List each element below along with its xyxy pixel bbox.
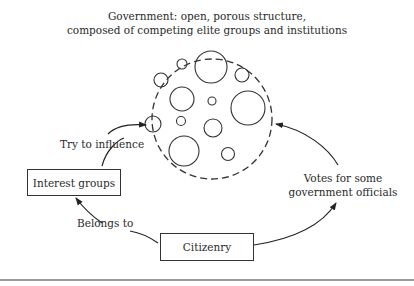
votes-label-line-2: government officials xyxy=(288,185,398,199)
interest-groups-label: Interest groups xyxy=(33,177,115,189)
citizenry-label: Citizenry xyxy=(183,241,231,253)
edge-belongs-to-lower xyxy=(130,231,158,243)
edge-try-to-influence-upper xyxy=(108,125,146,134)
interest-groups-box: Interest groups xyxy=(27,169,121,196)
edge-votes-upper xyxy=(276,124,338,165)
citizenry-box: Citizenry xyxy=(160,233,254,261)
belongs-to-label: Belongs to xyxy=(77,216,133,230)
elite-group-circles xyxy=(145,51,265,166)
edge-votes-lower xyxy=(254,203,336,245)
bottom-rule xyxy=(0,279,414,281)
votes-label-line-1: Votes for some xyxy=(288,171,398,185)
try-to-influence-label: Try to influence xyxy=(60,137,144,151)
